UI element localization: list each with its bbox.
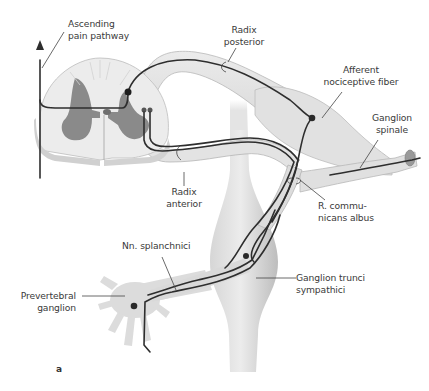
ramus-communicans-shape bbox=[258, 165, 302, 230]
trunk-top-fade bbox=[230, 100, 247, 130]
label-ganglion-spinale: Ganglion spinale bbox=[362, 112, 422, 135]
trunk-neuron bbox=[243, 253, 249, 259]
label-ascending-pain-pathway: Ascending pain pathway bbox=[68, 18, 129, 41]
prevertebral-neuron bbox=[131, 303, 138, 310]
ganglion-cell-body bbox=[309, 115, 316, 122]
label-ganglion-trunci-sympathici: Ganglion trunci sympathici bbox=[296, 272, 365, 295]
label-radix-posterior: Radix posterior bbox=[214, 24, 274, 47]
label-afferent-nociceptive-fiber: Afferent nociceptive fiber bbox=[316, 64, 406, 87]
nerve-cut-end bbox=[405, 150, 415, 166]
label-prevertebral-ganglion: Prevertebral ganglion bbox=[10, 290, 76, 313]
label-radix-anterior: Radix anterior bbox=[160, 186, 208, 209]
label-nn-splanchnici: Nn. splanchnici bbox=[122, 240, 191, 252]
panel-letter: a bbox=[56, 364, 62, 374]
anatomy-diagram bbox=[0, 0, 429, 391]
label-r-communicans-albus: R. commu- nicans albus bbox=[318, 200, 374, 223]
dorsal-horn-neuron bbox=[125, 89, 132, 96]
ascending-arrow-icon bbox=[36, 40, 44, 50]
